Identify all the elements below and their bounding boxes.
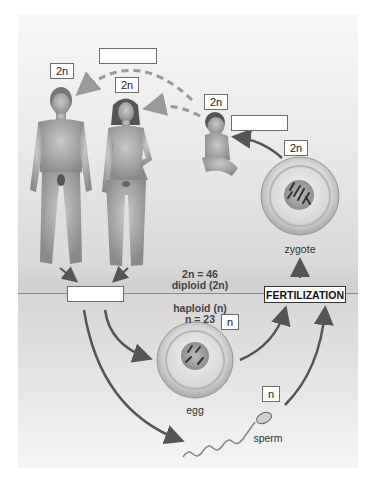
diploid-label-text: diploid (2n) [160, 279, 240, 291]
arrow-sperm-to-fertilization [285, 310, 325, 405]
man-ploidy-label: 2n [50, 63, 74, 79]
fertilization-label: FERTILIZATION [264, 286, 346, 303]
arrow-meiosis-to-egg [105, 310, 148, 358]
blank-label-box-growth[interactable] [231, 115, 288, 131]
woman-figure [102, 99, 152, 267]
baby-ploidy-label: 2n [204, 94, 228, 110]
dashed-arrow-baby-to-woman [148, 106, 200, 116]
blank-label-box-meiosis[interactable] [67, 286, 124, 302]
zygote-ploidy-label: 2n [284, 140, 308, 156]
arrow-egg-to-fertilization [240, 310, 285, 360]
sperm-ploidy-label: n [262, 386, 280, 402]
sperm-caption: sperm [248, 432, 288, 444]
zygote-caption: zygote [275, 243, 325, 255]
arrow-man-to-meiosis [60, 268, 75, 280]
haploid-count-text: n = 23 [160, 313, 240, 325]
blank-label-box-development[interactable] [99, 48, 157, 64]
egg-caption: egg [175, 404, 215, 416]
arrow-woman-to-meiosis [115, 268, 128, 280]
egg-cell [157, 322, 233, 398]
arrow-zygote-to-baby [236, 137, 282, 158]
woman-ploidy-label: 2n [115, 77, 139, 93]
man-figure [30, 87, 92, 264]
zygote-cell [261, 157, 339, 235]
